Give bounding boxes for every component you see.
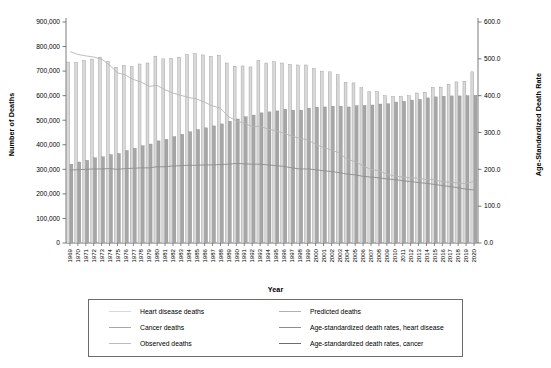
svg-text:0.0: 0.0 bbox=[484, 239, 493, 246]
svg-text:600.0: 600.0 bbox=[484, 18, 501, 25]
bar bbox=[260, 113, 263, 243]
svg-text:600,000: 600,000 bbox=[36, 92, 60, 99]
bar bbox=[122, 65, 125, 243]
bar bbox=[347, 107, 350, 243]
x-tick-label: 1982 bbox=[169, 248, 176, 262]
legend-label-asdr-heart-disease: Age-standardized death rates, heart dise… bbox=[310, 325, 444, 332]
x-tick-label: 2014 bbox=[423, 248, 430, 262]
bar bbox=[98, 57, 101, 243]
bar bbox=[236, 119, 239, 243]
bar bbox=[170, 59, 173, 243]
bar bbox=[284, 109, 287, 243]
bar bbox=[273, 62, 276, 243]
x-tick-label: 1988 bbox=[217, 248, 224, 262]
bar bbox=[431, 87, 434, 243]
bar bbox=[157, 141, 160, 243]
bar bbox=[91, 59, 94, 243]
svg-text:300.0: 300.0 bbox=[484, 129, 501, 136]
bar bbox=[209, 56, 212, 243]
legend-item-observed-deaths: Observed deaths bbox=[89, 341, 259, 348]
x-tick-label: 2002 bbox=[328, 248, 335, 262]
bar bbox=[268, 112, 271, 243]
legend-item-predicted-deaths: Predicted deaths bbox=[259, 309, 464, 316]
legend-label-predicted-deaths: Predicted deaths bbox=[310, 309, 361, 316]
bar bbox=[162, 59, 165, 243]
x-tick-label: 1973 bbox=[98, 248, 105, 262]
x-tick-label: 1970 bbox=[74, 248, 81, 262]
bar bbox=[281, 63, 284, 243]
bar bbox=[130, 67, 133, 243]
legend-label-cancer-deaths: Cancer deaths bbox=[140, 325, 184, 332]
chart-legend: Heart disease deaths Predicted deaths Ca… bbox=[88, 299, 463, 357]
svg-text:400,000: 400,000 bbox=[36, 141, 60, 148]
x-tick-label: 2012 bbox=[407, 248, 414, 262]
x-tick-label: 2009 bbox=[383, 248, 390, 262]
x-tick-label: 1969 bbox=[66, 248, 73, 262]
bar bbox=[395, 102, 398, 243]
bar bbox=[102, 157, 105, 243]
x-tick-label: 1985 bbox=[193, 248, 200, 262]
bar bbox=[186, 55, 189, 243]
bar bbox=[265, 63, 268, 243]
bar bbox=[368, 92, 371, 243]
bar bbox=[455, 82, 458, 243]
legend-item-heart-disease-deaths: Heart disease deaths bbox=[89, 309, 259, 316]
bar bbox=[201, 55, 204, 243]
x-tick-label: 1987 bbox=[209, 248, 216, 262]
bar bbox=[344, 82, 347, 243]
bar bbox=[67, 62, 70, 243]
x-tick-label: 1976 bbox=[122, 248, 129, 262]
bar bbox=[419, 99, 422, 243]
bar bbox=[244, 117, 247, 243]
bar bbox=[138, 64, 141, 243]
bar bbox=[78, 162, 81, 243]
bar bbox=[194, 54, 197, 243]
x-tick-label: 1986 bbox=[201, 248, 208, 262]
bar bbox=[308, 108, 311, 243]
bar bbox=[252, 115, 255, 243]
bar bbox=[376, 91, 379, 243]
x-tick-label: 1994 bbox=[264, 248, 271, 262]
legend-swatch-heart-disease-deaths bbox=[109, 311, 131, 312]
svg-text:0: 0 bbox=[56, 239, 60, 246]
bar bbox=[221, 124, 224, 243]
bar bbox=[217, 55, 220, 243]
x-tick-label: 1990 bbox=[233, 248, 240, 262]
x-tick-label: 1974 bbox=[106, 248, 113, 262]
svg-text:900,000: 900,000 bbox=[36, 18, 60, 25]
x-tick-label: 2003 bbox=[336, 248, 343, 262]
bar bbox=[447, 84, 450, 243]
bar bbox=[118, 153, 121, 243]
x-tick-label: 2016 bbox=[439, 248, 446, 262]
bar bbox=[225, 63, 228, 243]
bar bbox=[70, 164, 73, 243]
legend-item-asdr-heart-disease: Age-standardized death rates, heart dise… bbox=[259, 325, 464, 332]
x-tick-label: 1996 bbox=[280, 248, 287, 262]
bar bbox=[213, 126, 216, 243]
x-tick-label: 1991 bbox=[240, 248, 247, 262]
bar bbox=[442, 96, 445, 243]
bar bbox=[407, 96, 410, 243]
svg-text:400.0: 400.0 bbox=[484, 92, 501, 99]
legend-swatch-cancer-deaths bbox=[109, 327, 131, 328]
x-tick-label: 1993 bbox=[256, 248, 263, 262]
x-tick-label: 2013 bbox=[415, 248, 422, 262]
bar bbox=[328, 72, 331, 243]
x-tick-label: 1978 bbox=[137, 248, 144, 262]
legend-swatch-observed-deaths bbox=[109, 343, 131, 344]
bar bbox=[106, 62, 109, 243]
bar bbox=[257, 61, 260, 243]
x-tick-label: 2001 bbox=[320, 248, 327, 262]
x-tick-label: 1995 bbox=[272, 248, 279, 262]
svg-text:200.0: 200.0 bbox=[484, 166, 501, 173]
bar bbox=[292, 110, 295, 243]
bar bbox=[352, 83, 355, 243]
bar bbox=[471, 72, 474, 243]
x-tick-label: 1971 bbox=[82, 248, 89, 262]
svg-text:500,000: 500,000 bbox=[36, 117, 60, 124]
x-tick-label: 2007 bbox=[367, 248, 374, 262]
svg-text:200,000: 200,000 bbox=[36, 190, 60, 197]
bar bbox=[316, 107, 319, 243]
bar bbox=[75, 63, 78, 243]
x-tick-label: 1977 bbox=[130, 248, 137, 262]
